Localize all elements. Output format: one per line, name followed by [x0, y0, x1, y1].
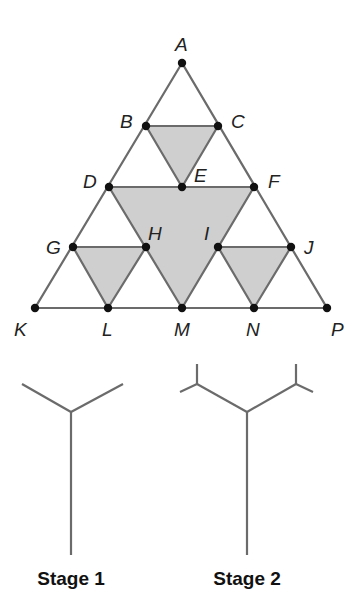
shaded-triangle-ijn — [218, 247, 291, 308]
point-n — [250, 304, 258, 312]
label-p: P — [331, 319, 344, 340]
label-i: I — [204, 223, 210, 244]
point-p — [323, 304, 331, 312]
label-k: K — [14, 319, 28, 340]
label-h: H — [148, 223, 162, 244]
stage-2-left-branch — [197, 384, 247, 412]
point-g — [69, 243, 77, 251]
stage-2-right-twig-side — [296, 384, 313, 392]
stage-1-right-branch — [71, 384, 123, 412]
point-j — [287, 243, 295, 251]
point-d — [105, 183, 113, 191]
point-i — [214, 243, 222, 251]
stage-2-left-twig-side — [180, 384, 197, 392]
shaded-triangle-bce — [146, 126, 218, 187]
point-f — [250, 183, 258, 191]
point-b — [142, 122, 150, 130]
point-m — [178, 304, 186, 312]
point-c — [214, 122, 222, 130]
label-f: F — [268, 171, 281, 192]
point-h — [142, 243, 150, 251]
point-l — [104, 304, 112, 312]
label-a: A — [174, 34, 188, 55]
stage-2-caption: Stage 2 — [213, 568, 281, 589]
point-e — [178, 183, 186, 191]
stage-1-caption: Stage 1 — [37, 568, 105, 589]
label-d: D — [83, 171, 97, 192]
label-l: L — [102, 319, 113, 340]
label-j: J — [303, 237, 314, 258]
stage-1-left-branch — [22, 384, 71, 412]
label-g: G — [46, 237, 61, 258]
sierpinski-triangle: A B C D E F G H I J K L M N P — [14, 34, 344, 340]
stage-2-right-branch — [247, 384, 296, 412]
figure: A B C D E F G H I J K L M N P Stage 1 St… — [0, 0, 353, 595]
point-k — [31, 304, 39, 312]
label-b: B — [120, 111, 133, 132]
label-n: N — [246, 319, 260, 340]
point-a — [178, 59, 186, 67]
label-e: E — [194, 165, 207, 186]
label-m: M — [174, 319, 190, 340]
label-c: C — [231, 111, 245, 132]
stage-1-tree: Stage 1 — [22, 384, 123, 589]
shaded-triangle-ghl — [73, 247, 146, 308]
stage-2-tree: Stage 2 — [180, 364, 313, 589]
